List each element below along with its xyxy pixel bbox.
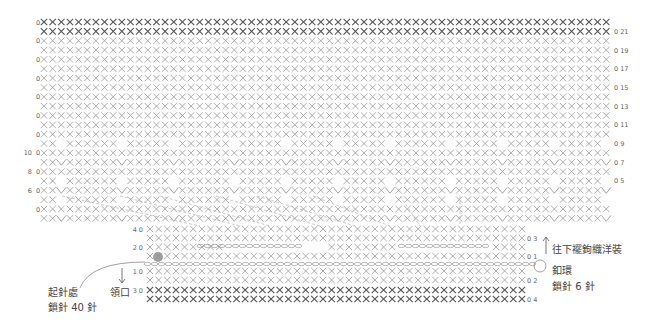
single-crochet-icon xyxy=(482,84,488,90)
single-crochet-icon xyxy=(207,287,213,293)
single-crochet-icon xyxy=(274,140,280,146)
single-crochet-icon xyxy=(309,19,315,25)
single-crochet-icon xyxy=(205,84,211,90)
button-loop-icon xyxy=(534,260,546,272)
single-crochet-icon xyxy=(335,19,341,25)
single-crochet-icon xyxy=(49,47,55,53)
single-crochet-icon xyxy=(577,206,583,212)
single-crochet-icon xyxy=(458,226,464,232)
single-crochet-icon xyxy=(41,19,47,25)
single-crochet-icon xyxy=(352,28,358,34)
single-crochet-icon xyxy=(326,131,332,137)
single-crochet-icon xyxy=(283,38,289,44)
single-crochet-icon xyxy=(41,28,47,34)
single-crochet-icon xyxy=(266,66,272,72)
single-crochet-icon xyxy=(205,122,211,128)
single-crochet-icon xyxy=(309,66,315,72)
single-crochet-icon xyxy=(292,168,298,174)
single-crochet-icon xyxy=(534,196,540,202)
single-crochet-icon xyxy=(482,215,488,221)
row-number: 0 2 xyxy=(527,277,537,285)
single-crochet-icon xyxy=(318,150,324,156)
single-crochet-icon xyxy=(577,94,583,100)
single-crochet-icon xyxy=(361,94,367,100)
single-crochet-icon xyxy=(328,235,334,241)
single-crochet-icon xyxy=(67,140,73,146)
single-crochet-icon xyxy=(603,56,609,62)
single-crochet-icon xyxy=(266,140,272,146)
single-crochet-icon xyxy=(153,150,159,156)
single-crochet-icon xyxy=(119,122,125,128)
single-crochet-icon xyxy=(153,19,159,25)
single-crochet-icon xyxy=(517,196,523,202)
single-crochet-icon xyxy=(568,38,574,44)
single-crochet-icon xyxy=(136,103,142,109)
single-crochet-icon xyxy=(484,287,490,293)
single-crochet-icon xyxy=(292,178,298,184)
single-crochet-icon xyxy=(259,296,265,302)
single-crochet-icon xyxy=(344,196,350,202)
single-crochet-icon xyxy=(415,226,421,232)
single-crochet-icon xyxy=(577,159,583,165)
single-crochet-icon xyxy=(292,150,298,156)
single-crochet-icon xyxy=(309,75,315,81)
single-crochet-icon xyxy=(491,122,497,128)
single-crochet-icon xyxy=(344,47,350,53)
single-crochet-icon xyxy=(378,75,384,81)
single-crochet-icon xyxy=(508,56,514,62)
single-crochet-icon xyxy=(430,206,436,212)
single-crochet-icon xyxy=(277,235,283,241)
single-crochet-icon xyxy=(171,206,177,212)
single-crochet-icon xyxy=(240,187,246,193)
single-crochet-icon xyxy=(251,287,257,293)
single-crochet-icon xyxy=(93,206,99,212)
single-crochet-icon xyxy=(41,122,47,128)
single-crochet-icon xyxy=(519,277,525,283)
chain-stitch-row xyxy=(144,262,536,265)
single-crochet-icon xyxy=(274,94,280,100)
single-crochet-icon xyxy=(543,84,549,90)
single-crochet-icon xyxy=(326,84,332,90)
single-crochet-icon xyxy=(127,168,133,174)
single-crochet-icon xyxy=(335,47,341,53)
single-crochet-icon xyxy=(456,56,462,62)
single-crochet-icon xyxy=(378,131,384,137)
single-crochet-icon xyxy=(179,159,185,165)
single-crochet-icon xyxy=(491,187,497,193)
single-crochet-icon xyxy=(225,253,231,259)
single-crochet-icon xyxy=(517,140,523,146)
single-crochet-icon xyxy=(387,56,393,62)
single-crochet-icon xyxy=(257,47,263,53)
single-crochet-icon xyxy=(543,75,549,81)
single-crochet-icon xyxy=(162,206,168,212)
single-crochet-icon xyxy=(491,168,497,174)
single-crochet-icon xyxy=(501,268,507,274)
single-crochet-icon xyxy=(378,206,384,212)
single-crochet-icon xyxy=(517,131,523,137)
single-crochet-icon xyxy=(199,296,205,302)
single-crochet-icon xyxy=(171,47,177,53)
row-number: 0 xyxy=(36,19,40,27)
single-crochet-icon xyxy=(534,150,540,156)
single-crochet-icon xyxy=(205,19,211,25)
single-crochet-icon xyxy=(517,215,523,221)
increase-icon xyxy=(550,215,560,221)
single-crochet-icon xyxy=(482,150,488,156)
single-crochet-icon xyxy=(577,103,583,109)
single-crochet-icon xyxy=(231,150,237,156)
single-crochet-icon xyxy=(292,47,298,53)
single-crochet-icon xyxy=(456,103,462,109)
single-crochet-icon xyxy=(439,196,445,202)
single-crochet-icon xyxy=(413,178,419,184)
single-crochet-icon xyxy=(205,75,211,81)
single-crochet-icon xyxy=(101,112,107,118)
single-crochet-icon xyxy=(188,28,194,34)
single-crochet-icon xyxy=(190,226,196,232)
single-crochet-icon xyxy=(231,112,237,118)
row-number: 0 4 xyxy=(527,296,537,304)
single-crochet-icon xyxy=(214,159,220,165)
single-crochet-icon xyxy=(344,131,350,137)
single-crochet-icon xyxy=(136,196,142,202)
single-crochet-icon xyxy=(534,47,540,53)
single-crochet-icon xyxy=(328,226,334,232)
